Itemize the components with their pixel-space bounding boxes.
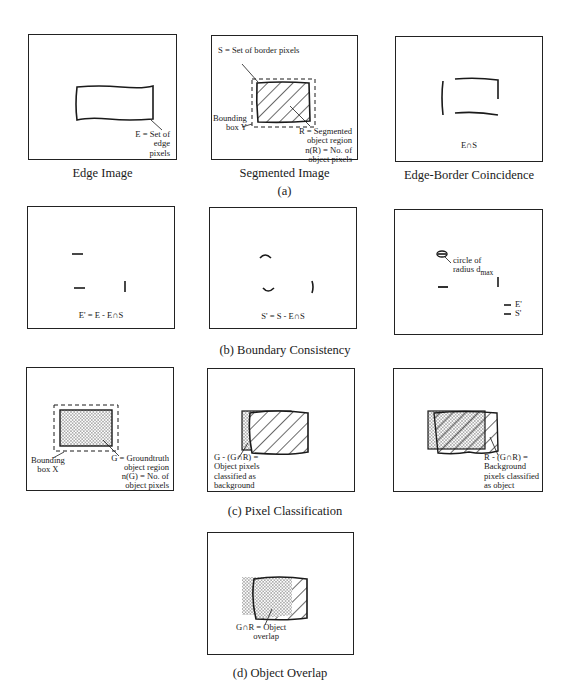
panel-boundary-distance: circle of radius dmax E' S' (394, 209, 543, 335)
panel-false-negative: G - (G∩R) = Object pixels classified as … (207, 368, 355, 492)
intersection-label: E∩S (396, 141, 542, 150)
groundtruth-region-g (428, 411, 485, 449)
false-positive-label: R - (G∩R) = Background pixels classified… (484, 453, 539, 491)
segmented-region-r (249, 411, 308, 454)
overlap-region (253, 577, 292, 619)
panel-edge-border-coincidence: E∩S (395, 36, 543, 162)
overlap-label: G∩R = Object overlap (236, 623, 286, 642)
border-residual-drawing (210, 208, 356, 328)
caption-edge-border-coincidence: Edge-Border Coincidence (395, 168, 543, 183)
legend-s-prime: S' (515, 309, 521, 318)
edge-pixels-label: E = Set of edge pixels (135, 130, 170, 158)
groundtruth-count-label: n(G) = No. of object pixels (122, 472, 169, 491)
circle-radius-label: circle of radius dmax (453, 256, 493, 278)
e-prime-formula: E' = E - E∩S (28, 311, 174, 320)
bounding-box-x-label: Bounding box X (31, 456, 65, 475)
bounding-box-y-label: Bounding box Y (213, 114, 247, 133)
segmented-object-region (257, 82, 310, 122)
group-caption-c: (c) Pixel Classification (160, 504, 410, 519)
false-negative-label: G - (G∩R) = Object pixels classified as … (214, 453, 260, 491)
segmented-region-label: R = Segmented object region (299, 127, 352, 146)
group-caption-a: (a) (211, 184, 358, 199)
group-caption-d: (d) Object Overlap (180, 666, 380, 681)
object-pixel-count-label: n(R) = No. of object pixels (305, 146, 352, 165)
panel-edge-residual: E' = E - E∩S (27, 206, 175, 329)
border-pixels-label: S = Set of border pixels (218, 46, 299, 55)
panel-border-residual: S' = S - E∩S (209, 207, 357, 329)
group-caption-b: (b) Boundary Consistency (160, 343, 410, 358)
s-prime-formula: S' = S - E∩S (210, 312, 356, 321)
panel-false-positive: R - (G∩R) = Background pixels classified… (393, 368, 543, 492)
panel-segmented-image: S = Set of border pixels Bounding box Y … (211, 35, 358, 160)
dmax-subscript: max (480, 268, 493, 277)
groundtruth-region-label: G = Groundtruth object region (111, 454, 169, 473)
panel-object-overlap: G∩R = Object overlap (207, 532, 354, 655)
caption-edge-image: Edge Image (28, 166, 177, 181)
panel-groundtruth: Bounding box X G = Groundtruth object re… (26, 367, 174, 491)
caption-segmented-image: Segmented Image (211, 166, 358, 181)
groundtruth-region (60, 410, 112, 446)
panel-edge-image: E = Set of edge pixels (28, 34, 177, 160)
